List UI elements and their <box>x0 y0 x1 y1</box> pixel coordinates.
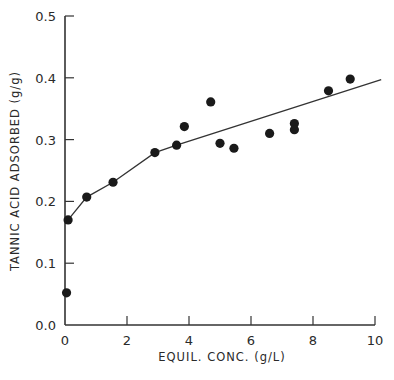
adsorption-chart: 02468100.00.10.20.30.40.5 EQUIL. CONC. (… <box>0 0 394 380</box>
x-tick-label: 8 <box>309 333 317 348</box>
x-axis-title: EQUIL. CONC. (g/L) <box>158 350 285 364</box>
data-point <box>150 148 159 157</box>
fit-line <box>68 80 381 220</box>
data-point <box>108 178 117 187</box>
x-tick-label: 6 <box>247 333 255 348</box>
y-tick-label: 0.4 <box>35 71 56 86</box>
y-tick-label: 0.2 <box>35 194 56 209</box>
data-point <box>82 192 91 201</box>
y-axis-title: TANNIC ACID ADSORBED (g/g) <box>8 71 22 272</box>
x-tick-label: 4 <box>185 333 193 348</box>
data-point <box>215 139 224 148</box>
y-tick-label: 0.3 <box>35 133 56 148</box>
y-tick-label: 0.5 <box>35 9 56 24</box>
axis-ticks: 02468100.00.10.20.30.40.5 <box>35 9 383 348</box>
x-tick-label: 0 <box>61 333 69 348</box>
fit-polyline <box>68 80 381 220</box>
data-point <box>265 129 274 138</box>
x-tick-label: 10 <box>367 333 384 348</box>
data-point <box>229 144 238 153</box>
data-point <box>62 288 71 297</box>
data-point <box>64 215 73 224</box>
axes <box>65 16 375 325</box>
data-point <box>346 74 355 83</box>
data-point <box>290 125 299 134</box>
y-tick-label: 0.0 <box>35 318 56 333</box>
y-tick-label: 0.1 <box>35 256 56 271</box>
data-point <box>180 122 189 131</box>
data-point <box>172 141 181 150</box>
data-point <box>324 86 333 95</box>
data-point <box>206 97 215 106</box>
x-tick-label: 2 <box>123 333 131 348</box>
